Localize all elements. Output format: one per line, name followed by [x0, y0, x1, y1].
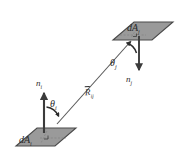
label-normal-nj: nj [126, 75, 132, 86]
label-angle-theta-i: θi [50, 99, 57, 111]
label-normal-ni-subscript: i [41, 84, 43, 90]
surface-patch-j [113, 22, 173, 40]
label-normal-nj-subscript: j [131, 80, 133, 86]
label-surface-dAi-base: dA [19, 134, 30, 145]
view-factor-diagram: dAj dAi ni nj θi θj Rij [0, 0, 181, 163]
label-normal-ni: ni [36, 79, 42, 90]
surface-patch-j-face [113, 22, 173, 40]
label-angle-theta-i-subscript: i [55, 104, 57, 111]
label-distance-rij-base: R [85, 87, 91, 97]
label-surface-dAj-subscript: j [138, 28, 140, 35]
label-surface-dAj: dAj [127, 23, 140, 35]
label-angle-theta-j-subscript: j [115, 63, 117, 70]
label-surface-dAj-base: dA [127, 22, 138, 33]
label-angle-theta-j: θj [110, 58, 117, 70]
label-surface-dAi-subscript: i [30, 140, 32, 147]
ray-vector-rij [57, 41, 131, 124]
label-distance-rij: Rij [85, 88, 94, 100]
label-surface-dAi: dAi [19, 135, 32, 147]
